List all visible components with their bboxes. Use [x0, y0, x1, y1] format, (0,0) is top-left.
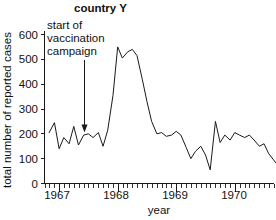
y-tick-label-200: 200 [19, 128, 38, 140]
chart-title: country Y [74, 2, 127, 14]
x-tick-label-1970: 1970 [221, 189, 247, 201]
line-chart-svg: 0 100 200 300 400 500 600 1967 1968 1969… [0, 0, 276, 220]
annotation-line-1: start of [47, 19, 83, 31]
y-tick-label-400: 400 [19, 78, 38, 90]
x-tick-label-1969: 1969 [162, 189, 188, 201]
y-tick-label-600: 600 [19, 29, 38, 41]
chart-figure: 0 100 200 300 400 500 600 1967 1968 1969… [0, 0, 276, 220]
y-tick-label-500: 500 [19, 53, 38, 65]
x-axis-title: year [148, 204, 171, 216]
y-axis-tick-labels: 0 100 200 300 400 500 600 [19, 29, 38, 190]
annotation-line-2: vaccination [47, 32, 105, 44]
x-tick-label-1968: 1968 [103, 189, 129, 201]
y-tick-label-100: 100 [19, 153, 38, 165]
annotation-line-3: campaign [47, 45, 97, 57]
y-tick-label-0: 0 [32, 178, 38, 190]
y-axis-title: total number of reported cases [1, 32, 13, 188]
y-tick-label-300: 300 [19, 103, 38, 115]
annotation-start-of-vaccination-campaign: start of vaccination campaign [47, 19, 105, 133]
x-axis-tick-labels: 1967 1968 1969 1970 [44, 189, 247, 201]
annotation-arrow-head [82, 125, 88, 133]
x-tick-label-1967: 1967 [44, 189, 70, 201]
data-series-line [49, 47, 276, 181]
y-axis-ticks [41, 35, 45, 184]
